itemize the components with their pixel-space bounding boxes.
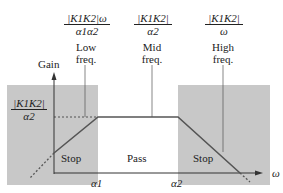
gain-level-label: |K1K2| α2: [11, 97, 47, 122]
y-axis-label: Gain: [38, 58, 59, 70]
y-axis-arrow-icon: [52, 72, 57, 80]
low-freq-formula: |K1K2|ω α1α2: [64, 12, 110, 37]
x-tick-alpha1: α1: [91, 177, 102, 189]
mid-freq-formula: |K1K2| α2: [134, 12, 172, 37]
low-freq-label: Low freq.: [70, 41, 102, 65]
high-freq-formula: |K1K2| ω: [205, 12, 243, 37]
x-axis-label: ω: [272, 167, 280, 179]
x-tick-alpha2: α2: [171, 177, 182, 189]
region-label-stop-right: Stop: [193, 152, 213, 164]
mid-freq-label: Mid freq.: [136, 41, 168, 65]
stop-region-right: [178, 85, 270, 185]
high-freq-label: High freq.: [207, 41, 239, 65]
region-label-stop-left: Stop: [61, 152, 81, 164]
region-label-pass: Pass: [127, 152, 147, 164]
